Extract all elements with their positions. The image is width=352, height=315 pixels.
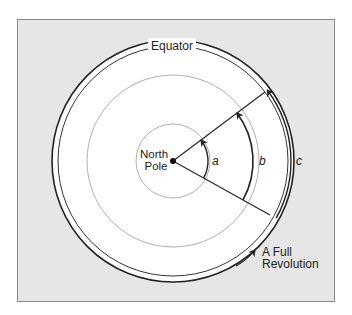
north-label: North bbox=[140, 148, 168, 160]
north-pole-angle-diagram: Equator North Pole a b c A Full Revoluti… bbox=[0, 0, 352, 315]
north-pole-dot bbox=[170, 158, 176, 164]
equator-label: Equator bbox=[151, 39, 193, 53]
arc-c-label: c bbox=[296, 154, 302, 168]
pole-label: Pole bbox=[144, 160, 167, 172]
arc-b-label: b bbox=[259, 154, 266, 168]
arc-a-label: a bbox=[212, 154, 219, 168]
full-revolution-label-line2: Revolution bbox=[262, 257, 319, 271]
